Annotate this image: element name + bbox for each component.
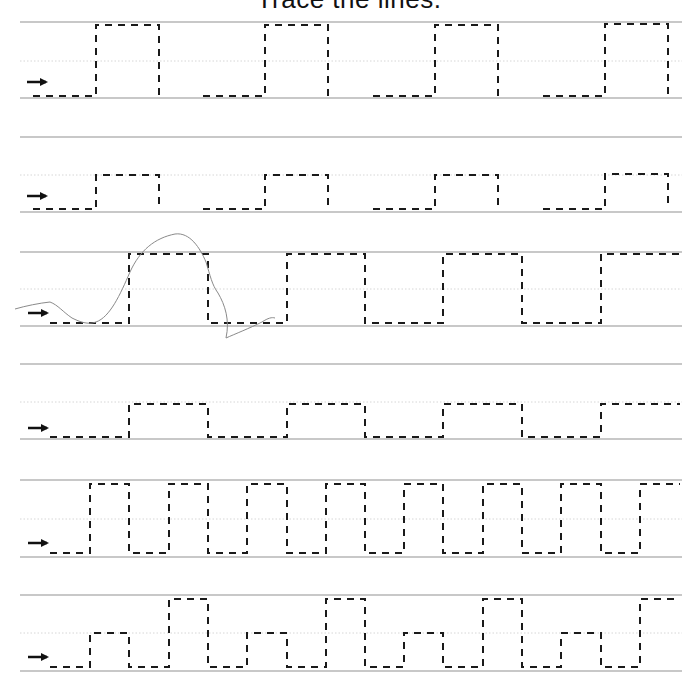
trace-path[interactable] [33, 175, 159, 209]
trace-path[interactable] [203, 175, 328, 209]
trace-path[interactable] [50, 599, 680, 667]
row-6-alternating-height-wave [20, 595, 682, 671]
row-4-short-square-wave [20, 364, 682, 439]
row-3-tall-square-wave [15, 234, 682, 338]
trace-path[interactable] [543, 24, 668, 96]
trace-path[interactable] [373, 175, 498, 209]
trace-path[interactable] [50, 404, 680, 437]
row-1-tall-square-gaps [20, 22, 682, 98]
trace-path[interactable] [50, 254, 680, 323]
trace-path[interactable] [50, 484, 680, 553]
row-5-narrow-tall-wave [20, 480, 682, 557]
trace-path[interactable] [203, 25, 328, 96]
trace-path[interactable] [543, 174, 668, 209]
tracing-worksheet [0, 0, 698, 688]
row-2-short-square-gaps [20, 137, 682, 212]
